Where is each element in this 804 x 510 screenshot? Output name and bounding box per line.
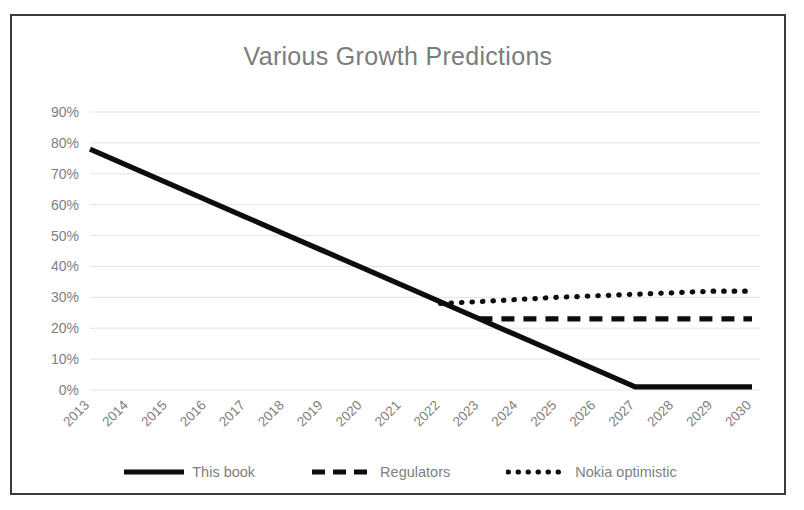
x-axis-tick-label: 2019 [294, 398, 326, 430]
data-series-group [90, 149, 752, 387]
y-axis-tick-label: 30% [51, 289, 79, 305]
x-axis-tick-label: 2024 [489, 397, 521, 429]
x-axis-tick-label: 2017 [216, 398, 248, 430]
legend-label-nokia-optimistic: Nokia optimistic [575, 464, 677, 480]
legend-label-regulators: Regulators [380, 464, 450, 480]
solid-line-icon [123, 466, 185, 478]
x-axis-tick-labels: 2013201420152016201720182019202020212022… [60, 397, 754, 429]
x-axis-tick-label: 2013 [60, 398, 92, 430]
legend-item-regulators[interactable]: Regulators [311, 464, 450, 480]
y-axis-tick-label: 50% [51, 228, 79, 244]
x-axis-tick-label: 2018 [255, 398, 287, 430]
x-axis-tick-label: 2029 [683, 398, 715, 430]
x-axis-tick-label: 2028 [644, 398, 676, 430]
x-axis-tick-label: 2020 [333, 398, 365, 430]
x-axis-tick-label: 2014 [99, 397, 131, 429]
legend-label-this-book: This book [192, 464, 255, 480]
x-axis-tick-label: 2027 [605, 398, 637, 430]
gridlines-group [90, 112, 760, 390]
legend-item-nokia-optimistic[interactable]: Nokia optimistic [506, 464, 677, 480]
x-axis-tick-label: 2015 [138, 398, 170, 430]
chart-legend: This book Regulators Nokia optimistic [12, 464, 788, 480]
y-axis-tick-label: 10% [51, 351, 79, 367]
x-axis-tick-label: 2021 [372, 398, 404, 430]
x-axis-tick-label: 2023 [450, 398, 482, 430]
y-axis-tick-label: 80% [51, 135, 79, 151]
y-axis-tick-label: 40% [51, 258, 79, 274]
y-axis-tick-label: 90% [51, 104, 79, 120]
x-axis-tick-label: 2025 [528, 398, 560, 430]
x-axis-tick-label: 2016 [177, 398, 209, 430]
chart-container: Various Growth Predictions 0%10%20%30%40… [10, 14, 786, 495]
x-axis-tick-label: 2030 [722, 398, 754, 430]
y-axis-tick-label: 20% [51, 320, 79, 336]
y-axis-tick-label: 60% [51, 197, 79, 213]
x-axis-tick-label: 2026 [567, 398, 599, 430]
legend-item-this-book[interactable]: This book [123, 464, 255, 480]
dotted-line-icon [506, 466, 568, 478]
dashed-line-icon [311, 466, 373, 478]
y-axis-tick-label: 70% [51, 166, 79, 182]
y-axis-tick-labels: 0%10%20%30%40%50%60%70%80%90% [51, 104, 79, 398]
y-axis-tick-label: 0% [59, 382, 79, 398]
x-axis-tick-label: 2022 [411, 398, 443, 430]
chart-plot-area: 0%10%20%30%40%50%60%70%80%90% 2013201420… [12, 16, 788, 456]
series-line-this-book [90, 149, 752, 387]
